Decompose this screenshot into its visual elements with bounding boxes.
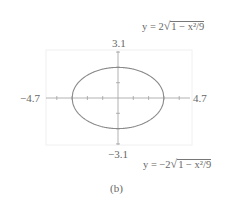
y-max-label: 3.1: [112, 38, 126, 49]
viewing-window: [46, 50, 192, 145]
lower-equation-prefix: y = −2: [143, 159, 171, 170]
sqrt-icon: √: [171, 157, 178, 171]
lower-equation: y = −2√1 − x²/9: [143, 158, 211, 171]
upper-equation: y = 2√1 − x²/9: [142, 20, 204, 33]
x-min-label: −4.7: [20, 93, 40, 104]
figure-caption: (b): [110, 183, 123, 194]
y-min-label: −3.1: [108, 149, 128, 160]
sqrt-icon: √: [164, 19, 171, 33]
lower-equation-radicand: 1 − x²/9: [177, 159, 211, 171]
upper-equation-prefix: y = 2: [142, 21, 164, 32]
x-max-label: 4.7: [193, 93, 207, 104]
upper-equation-radicand: 1 − x²/9: [170, 21, 204, 33]
